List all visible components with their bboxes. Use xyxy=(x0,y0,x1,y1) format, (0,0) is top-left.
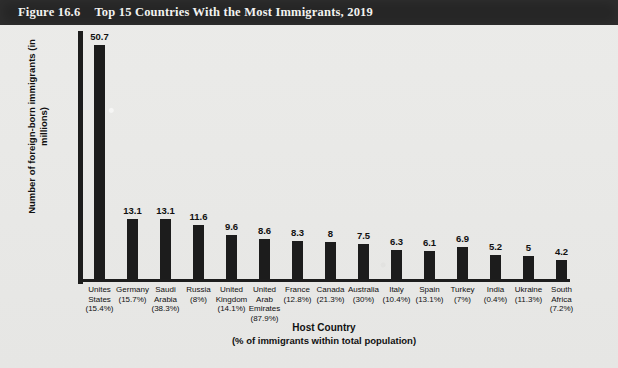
bar[interactable] xyxy=(424,251,435,279)
bar-value-label: 13.1 xyxy=(123,205,142,216)
x-axis-category-label-line: Africa xyxy=(545,295,578,305)
bar[interactable] xyxy=(226,235,237,279)
bar[interactable] xyxy=(193,225,204,279)
bar[interactable] xyxy=(160,219,171,279)
bar-value-label: 5.2 xyxy=(489,241,502,252)
x-axis-category-label: Russia(8%) xyxy=(182,285,215,304)
bar[interactable] xyxy=(457,247,468,279)
x-axis-category-label-line: France xyxy=(281,285,314,295)
x-axis-category-label: Turkey(7%) xyxy=(446,285,479,304)
x-axis-title: Host Country (% of immigrants within tot… xyxy=(78,321,570,347)
x-axis-category-label: Germany(15.7%) xyxy=(116,285,149,304)
bar-slot: 8.6 xyxy=(248,31,281,279)
x-axis-category-label-line: Turkey xyxy=(446,285,479,295)
bar[interactable] xyxy=(325,242,336,279)
bar-slot: 5.2 xyxy=(479,31,512,279)
x-axis-category-label-line: (10.4%) xyxy=(380,295,413,305)
x-axis-category-label: UnitedKingdom(14.1%) xyxy=(215,285,248,314)
x-axis-category-label-line: Arab xyxy=(248,295,281,305)
x-axis-category-label: Australia(30%) xyxy=(347,285,380,304)
bar[interactable] xyxy=(127,219,138,279)
figure-title: Top 15 Countries With the Most Immigrant… xyxy=(94,5,373,20)
bar[interactable] xyxy=(523,256,534,279)
bar-value-label: 8.6 xyxy=(258,225,271,236)
x-axis-category-label-line: Saudi xyxy=(149,285,182,295)
x-axis-category-label-line: Germany xyxy=(116,285,149,295)
x-axis-category-label-line: States xyxy=(83,295,116,305)
x-axis-category-label-line: Ukraine xyxy=(512,285,545,295)
bar-slot: 9.6 xyxy=(215,31,248,279)
bar-value-label: 4.2 xyxy=(555,246,568,257)
x-axis-title-main: Host Country xyxy=(78,321,570,334)
bar-slot: 13.1 xyxy=(149,31,182,279)
x-axis-category-label-line: (0.4%) xyxy=(479,295,512,305)
bar[interactable] xyxy=(358,244,369,279)
bar[interactable] xyxy=(490,255,501,279)
bar-slot: 8.3 xyxy=(281,31,314,279)
bar[interactable] xyxy=(94,45,105,279)
x-axis-category-label-line: Kingdom xyxy=(215,295,248,305)
x-axis-category-label-line: (15.7%) xyxy=(116,295,149,305)
bar-slot: 6.3 xyxy=(380,31,413,279)
x-axis-category-label: Canada(21.3%) xyxy=(314,285,347,304)
x-axis-category-label-line: (15.4%) xyxy=(83,304,116,314)
bar-slot: 6.9 xyxy=(446,31,479,279)
bar-value-label: 6.1 xyxy=(423,237,436,248)
bar-slot: 8 xyxy=(314,31,347,279)
figure-container: Figure 16.6 Top 15 Countries With the Mo… xyxy=(0,0,618,368)
plot-area: Number of foreign-born immigrants (in mi… xyxy=(0,25,618,368)
bar-slot: 6.1 xyxy=(413,31,446,279)
bar-slot: 13.1 xyxy=(116,31,149,279)
x-axis-category-label-line: South xyxy=(545,285,578,295)
bar-value-label: 7.5 xyxy=(357,230,370,241)
x-axis-category-label-line: (7%) xyxy=(446,295,479,305)
x-axis-category-label: UnitesStates(15.4%) xyxy=(83,285,116,314)
x-axis-title-sub: (% of immigrants within total population… xyxy=(78,334,570,347)
bar-slot: 5 xyxy=(512,31,545,279)
y-axis-title-line1: Number of foreign-born xyxy=(26,107,37,214)
x-axis-category-label-line: Arabia xyxy=(149,295,182,305)
x-axis-category-label-line: Unites xyxy=(83,285,116,295)
bar[interactable] xyxy=(391,250,402,279)
x-axis-category-label-line: Russia xyxy=(182,285,215,295)
bar-slot: 50.7 xyxy=(83,31,116,279)
bar-value-label: 11.6 xyxy=(190,211,208,222)
bar-value-label: 9.6 xyxy=(225,221,238,232)
y-axis-title: Number of foreign-born immigrants (in mi… xyxy=(26,32,49,222)
bar-value-label: 13.1 xyxy=(156,205,175,216)
bar[interactable] xyxy=(292,241,303,279)
x-axis-category-label: SaudiArabia(38.3%) xyxy=(149,285,182,314)
x-axis-category-label: UnitedArabEmirates(87.9%) xyxy=(248,285,281,323)
x-axis-category-label-line: (21.3%) xyxy=(314,295,347,305)
bar-slot: 4.2 xyxy=(545,31,578,279)
x-axis-category-label-line: (8%) xyxy=(182,295,215,305)
bar[interactable] xyxy=(556,260,567,279)
x-axis-line xyxy=(78,279,570,282)
bar-value-label: 50.7 xyxy=(90,31,109,42)
x-axis-category-label-line: (13.1%) xyxy=(413,295,446,305)
bar-value-label: 5 xyxy=(526,242,531,253)
x-axis-category-label-line: Spain xyxy=(413,285,446,295)
x-axis-category-label-line: India xyxy=(479,285,512,295)
x-axis-category-label-line: (30%) xyxy=(347,295,380,305)
x-axis-category-label-line: United xyxy=(248,285,281,295)
bar-value-label: 6.3 xyxy=(390,236,403,247)
figure-header-inner: Figure 16.6 Top 15 Countries With the Mo… xyxy=(18,0,373,25)
bar-slot: 7.5 xyxy=(347,31,380,279)
x-axis-category-label-line: Italy xyxy=(380,285,413,295)
x-axis-category-label: SouthAfrica(7.2%) xyxy=(545,285,578,314)
x-axis-category-label: France(12.8%) xyxy=(281,285,314,304)
x-axis-category-label-line: Canada xyxy=(314,285,347,295)
bar-slot: 11.6 xyxy=(182,31,215,279)
bar-value-label: 6.9 xyxy=(456,233,469,244)
x-axis-category-label-line: (12.8%) xyxy=(281,295,314,305)
x-axis-category-label: Spain(13.1%) xyxy=(413,285,446,304)
x-axis-category-label-line: Australia xyxy=(347,285,380,295)
figure-header-bar: Figure 16.6 Top 15 Countries With the Mo… xyxy=(0,0,618,25)
x-axis-category-label-line: United xyxy=(215,285,248,295)
x-axis-category-label-line: Emirates xyxy=(248,304,281,314)
x-axis-category-label-line: (11.3%) xyxy=(512,295,545,305)
bar[interactable] xyxy=(259,239,270,279)
figure-number: Figure 16.6 xyxy=(18,5,80,20)
x-axis-category-label: Ukraine(11.3%) xyxy=(512,285,545,304)
